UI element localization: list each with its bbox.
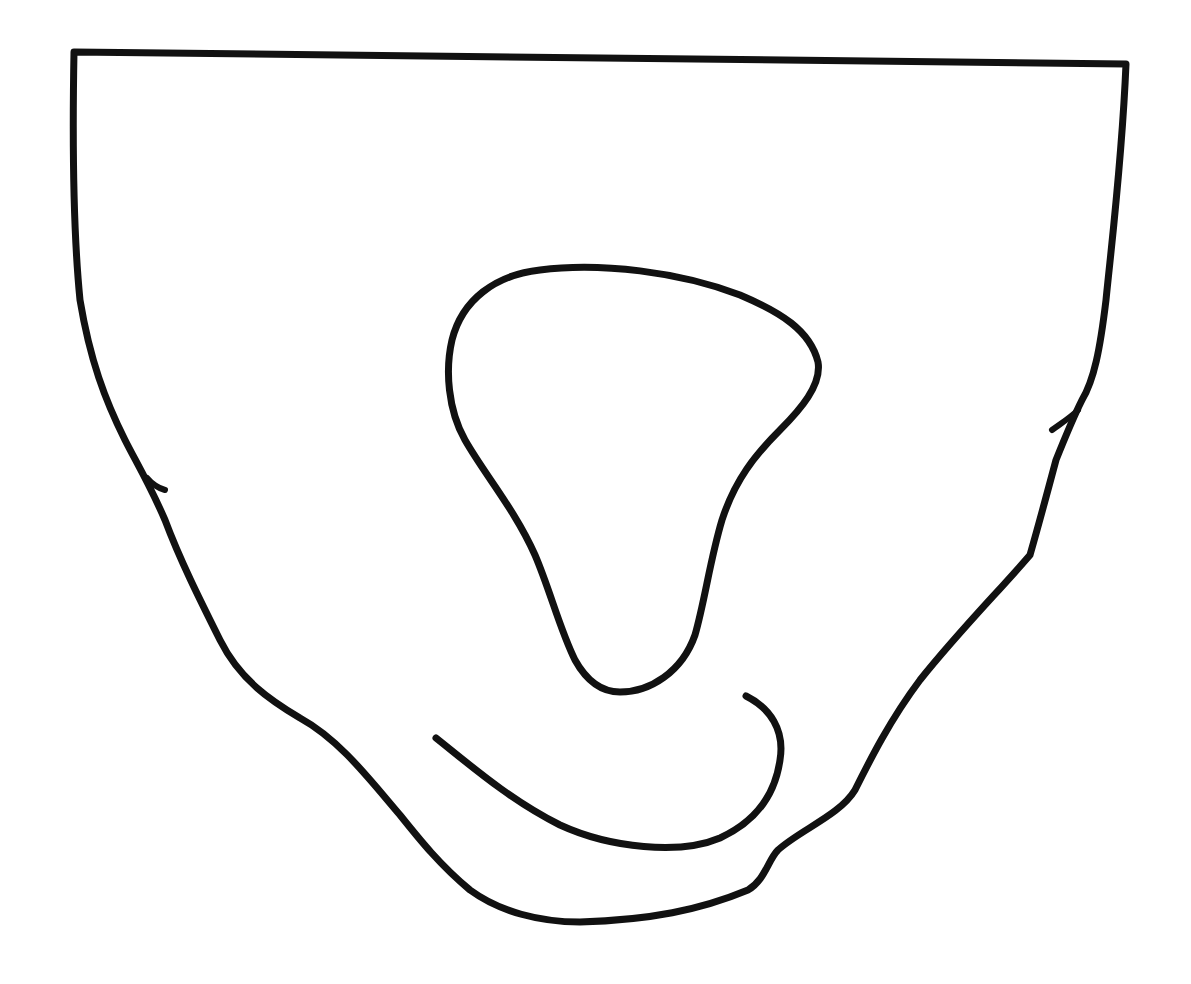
vessel-line-drawing (0, 0, 1191, 984)
